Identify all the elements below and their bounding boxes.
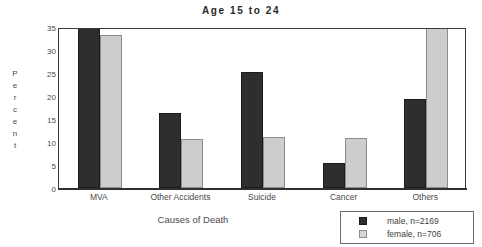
chart-title: Age 15 to 24 [0,5,482,16]
y-axis-tick-label: 30 [4,47,56,56]
bar-female [181,139,203,188]
bar-female [100,35,122,188]
x-axis-tick-label: Cancer [330,192,357,202]
y-axis-tick-label: 25 [4,70,56,79]
x-axis-title: Causes of Death [58,214,328,225]
legend-item: male, n=2169 [341,214,473,227]
x-axis-tick-label: MVA [90,192,108,202]
male-swatch-icon [359,217,367,225]
y-axis-tick-labels: 05101520253035 [0,0,56,247]
bar-female [263,137,285,188]
y-axis-tick-label: 20 [4,93,56,102]
bar-male [404,99,426,188]
plot-area [58,28,466,189]
x-axis-tick-label: Suicide [248,192,276,202]
legend-item-label: male, n=2169 [387,216,439,226]
y-axis-tick-label: 5 [4,162,56,171]
chart-legend: male, n=2169female, n=706 [340,211,474,244]
y-axis-tick-label: 0 [4,185,56,194]
legend-item: female, n=706 [341,227,473,240]
bar-female [345,138,367,188]
x-axis-tick-labels: MVAOther AccidentsSuicideCancerOthers [58,192,466,206]
y-axis-tick-label: 10 [4,139,56,148]
bar-chart: Age 15 to 24 Percent 05101520253035 MVAO… [0,0,482,247]
legend-item-label: female, n=706 [387,229,441,239]
female-swatch-icon [359,230,367,238]
bar-male [159,113,181,188]
x-axis-tick-label: Other Accidents [150,192,210,202]
bar-female [426,28,448,188]
bar-male [323,163,345,188]
bar-male [78,28,100,188]
y-axis-tick-label: 35 [4,24,56,33]
x-axis-line [58,188,467,190]
bar-male [241,72,263,188]
y-axis-tick-label: 15 [4,116,56,125]
x-axis-tick-label: Others [412,192,438,202]
